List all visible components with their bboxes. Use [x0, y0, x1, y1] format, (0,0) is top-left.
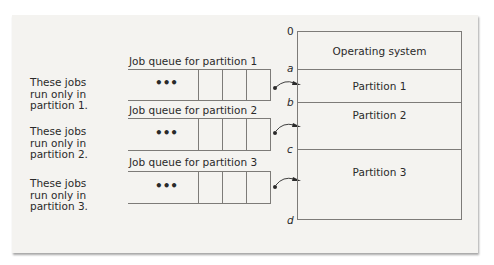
- segment-label: Partition 3: [353, 166, 407, 178]
- description-line: partition 2.: [30, 149, 88, 161]
- segment-label: Operating system: [333, 45, 427, 57]
- queue-label-3: Job queue for partition 3: [129, 156, 257, 168]
- address-a: a: [287, 62, 293, 74]
- address-d: d: [287, 214, 294, 226]
- queue-1-cell-divider: [222, 69, 223, 101]
- queue-1-ellipsis: •••: [155, 76, 178, 90]
- description-line: These jobs: [30, 178, 88, 190]
- segment-partition-2: Partition 2: [298, 103, 461, 133]
- description-line: These jobs: [30, 77, 88, 89]
- description-line: partition 3.: [30, 201, 88, 213]
- description-partition-3: These jobs run only in partition 3.: [30, 178, 88, 213]
- description-partition-2: These jobs run only in partition 2.: [30, 126, 88, 161]
- queue-2-cell-divider: [222, 118, 223, 151]
- address-c: c: [287, 143, 293, 155]
- segment-label: Partition 1: [353, 80, 407, 92]
- queue-2-top-border: [128, 118, 271, 119]
- queue-2-ellipsis: •••: [155, 126, 178, 140]
- queue-3-ellipsis: •••: [155, 179, 178, 193]
- address-b: b: [287, 96, 294, 108]
- address-0: 0: [287, 25, 294, 37]
- queue-1-bottom-border: [128, 100, 271, 101]
- queue-1-cell-divider: [246, 69, 247, 101]
- queue-3-cell-divider: [222, 171, 223, 204]
- segment-label: Partition 2: [353, 109, 407, 121]
- queue-2-bottom-border: [128, 150, 271, 151]
- queue-label-1: Job queue for partition 1: [129, 55, 257, 67]
- queue-3-bottom-border: [128, 203, 271, 204]
- queue-3-top-border: [128, 171, 271, 172]
- segment-partition-1: Partition 1: [298, 70, 461, 102]
- description-line: These jobs: [30, 126, 88, 138]
- description-line: partition 1.: [30, 100, 88, 112]
- queue-3-cell-divider: [198, 171, 199, 204]
- description-partition-1: These jobs run only in partition 1.: [30, 77, 88, 112]
- queue-1-top-border: [128, 69, 271, 70]
- queue-label-2: Job queue for partition 2: [129, 104, 257, 116]
- segment-partition-3: Partition 3: [298, 150, 461, 194]
- queue-2-cell-divider: [246, 118, 247, 151]
- queue-1-cell-divider: [198, 69, 199, 101]
- queue-2-cell-divider: [198, 118, 199, 151]
- queue-3-cell-divider: [246, 171, 247, 204]
- segment-operating-system: Operating system: [298, 32, 461, 69]
- memory-block: Operating system Partition 1 Partition 2…: [297, 31, 462, 220]
